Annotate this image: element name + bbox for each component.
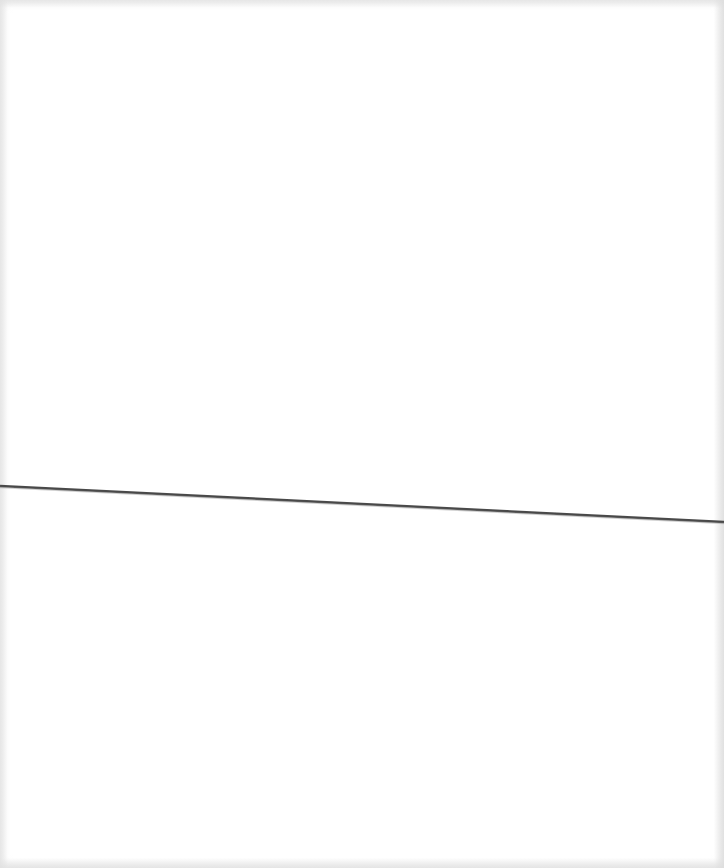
page-edge-shadow-top: [0, 0, 724, 8]
page-edge-shadow-left: [0, 0, 8, 868]
page-edge-shadow-bottom: [0, 858, 724, 868]
scanned-page: [0, 0, 724, 868]
diagonal-rule-line: [0, 0, 724, 868]
page-edge-shadow-right: [714, 0, 724, 868]
